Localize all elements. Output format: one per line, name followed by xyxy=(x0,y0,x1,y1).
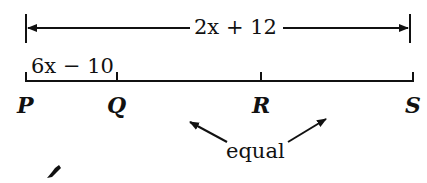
point-label-r: R xyxy=(252,92,270,118)
equal-arrow-right xyxy=(288,119,326,142)
equal-arrow-left xyxy=(190,122,227,142)
total-length-label: 2x + 12 xyxy=(192,14,279,40)
equal-annotation: equal xyxy=(226,139,285,163)
point-label-s: S xyxy=(405,92,421,118)
point-label-p: P xyxy=(17,92,34,118)
segment-pq-label: 6x − 10 xyxy=(29,55,116,77)
stray-mark xyxy=(47,165,61,178)
point-label-q: Q xyxy=(107,92,126,118)
